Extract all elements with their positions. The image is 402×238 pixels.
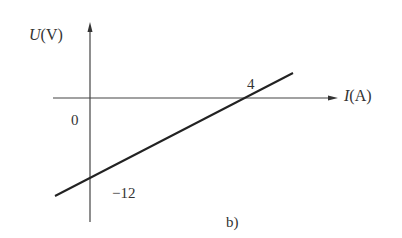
y-intercept-label: −12 xyxy=(112,185,135,202)
x-axis-arrow-icon xyxy=(328,96,338,101)
x-intercept-label: 4 xyxy=(247,76,255,93)
origin-label: 0 xyxy=(71,112,79,129)
data-line xyxy=(55,73,293,196)
x-axis-label: I(A) xyxy=(344,87,372,105)
y-axis-arrow-icon xyxy=(88,22,93,32)
figure-caption: b) xyxy=(226,214,239,231)
y-axis-label: U(V) xyxy=(29,26,63,44)
